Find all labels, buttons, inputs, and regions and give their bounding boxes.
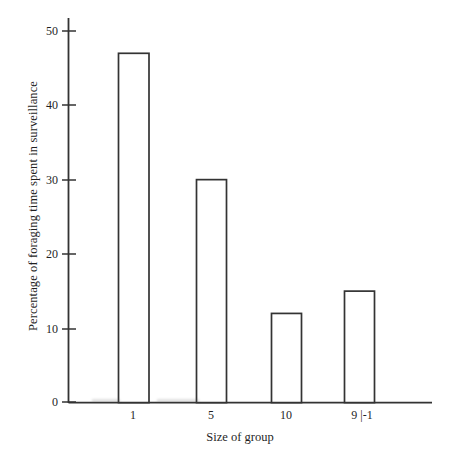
x-axis-title: Size of group [130,430,350,445]
y-tick-label-0: 0 [32,396,58,408]
chart-plot-area [0,0,460,459]
x-tick-label-group-4: 9 |-1 [351,409,372,421]
bar-chart-figure: 50 40 30 20 10 0 1 5 10 9 |-1 Percentage… [0,0,460,459]
bar-2 [197,180,227,403]
bar-4 [345,291,375,402]
x-tick-label-10: 10 [280,409,292,421]
bar-3 [272,313,302,402]
y-axis-title: Percentage of foraging time spent in sur… [22,16,44,396]
x-tick-label-5: 5 [208,409,214,421]
x-tick-label-1: 1 [130,409,136,421]
bar-1 [119,53,150,402]
